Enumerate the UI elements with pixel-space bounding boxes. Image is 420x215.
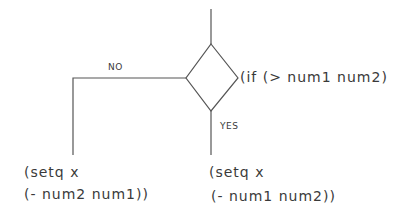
yes-action-line2: (- num1 num2)) [211,188,336,204]
no-branch-label: NO [108,62,123,72]
decision-diamond [186,44,238,111]
yes-branch-label: YES [220,121,238,131]
no-action-line1: (setq x [24,164,79,180]
no-branch-line [73,78,186,155]
no-action-line2: (- num2 num1)) [24,186,149,202]
flowchart-lines [0,0,420,215]
flowchart-diagram: (if (> num1 num2) NO YES (setq x (- num2… [0,0,420,215]
yes-action-line1: (setq x [209,164,264,180]
condition-label: (if (> num1 num2) [240,69,388,85]
